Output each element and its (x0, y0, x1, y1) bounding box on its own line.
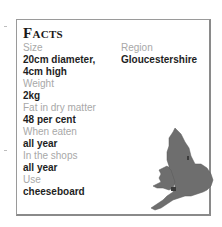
fact-use: Use cheeseboard (23, 174, 123, 198)
fact-value: 20cm diameter, (23, 54, 123, 66)
fact-in-shops: In the shops all year (23, 150, 123, 174)
fact-weight: Weight 2kg (23, 78, 123, 102)
england-wales-map-icon (145, 126, 217, 214)
fact-when-eaten: When eaten all year (23, 126, 123, 150)
fact-value: cheeseboard (23, 186, 123, 198)
fact-value: 4cm high (23, 66, 123, 78)
fact-label: Weight (23, 78, 123, 90)
facts-title: Facts (23, 25, 63, 41)
fact-label: Use (23, 174, 123, 186)
fact-region: Region Gloucestershire (121, 42, 211, 66)
facts-left-column: Size 20cm diameter, 4cm high Weight 2kg … (23, 42, 123, 198)
fact-label: Size (23, 42, 123, 54)
fact-label: When eaten (23, 126, 123, 138)
fact-fat: Fat in dry matter 48 per cent (23, 102, 123, 126)
facts-right-column: Region Gloucestershire (121, 42, 211, 66)
margin-mark (4, 26, 7, 27)
fact-label: In the shops (23, 150, 123, 162)
fact-value: Gloucestershire (121, 54, 211, 66)
fact-value: 48 per cent (23, 114, 123, 126)
facts-box: Facts Size 20cm diameter, 4cm high Weigh… (16, 19, 211, 216)
fact-value: all year (23, 162, 123, 174)
fact-value: all year (23, 138, 123, 150)
fact-size: Size 20cm diameter, 4cm high (23, 42, 123, 78)
fact-label: Region (121, 42, 211, 54)
margin-mark (4, 150, 7, 151)
fact-label: Fat in dry matter (23, 102, 123, 114)
fact-value: 2kg (23, 90, 123, 102)
